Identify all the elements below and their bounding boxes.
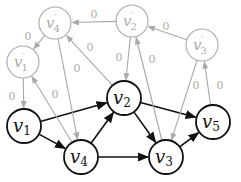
edge-weight-label: 0 — [193, 79, 200, 92]
edge-v2-to-v3 — [134, 112, 156, 142]
edge-v1-to-v4 — [39, 134, 65, 148]
node-v2: v2 — [107, 81, 141, 115]
node-v1: v1 — [7, 109, 41, 143]
edge-weight-label: 0 — [116, 51, 123, 64]
node-v4: v4 — [64, 140, 98, 174]
node-v3p: v′3 — [186, 29, 218, 61]
edge-weight-label: 0 — [9, 90, 16, 103]
edge-weight-label: 0 — [149, 53, 156, 66]
edge-v3p-to-v3 — [172, 60, 198, 140]
node-v5: v5 — [196, 105, 230, 139]
edge-weight-label: 0 — [217, 79, 224, 92]
edge-weight-label: 0 — [87, 41, 94, 54]
edge-v4p-to-v1p — [34, 35, 45, 48]
edge-weight-label: 0 — [25, 30, 32, 43]
edge-v5-to-v3p — [204, 62, 210, 105]
node-v1p: v′1 — [7, 46, 39, 78]
node-v3: v3 — [149, 140, 183, 174]
node-v4p: v′4 — [39, 7, 71, 39]
node-v2p: v′2 — [116, 5, 148, 37]
edge-v3-to-v5 — [180, 133, 199, 147]
edge-v4-to-v2 — [91, 113, 113, 144]
edge-weight-label: 0 — [52, 88, 59, 101]
edge-v2p-to-v4p — [72, 21, 116, 22]
edge-weight-label: 0 — [74, 62, 81, 75]
edge-weight-label: 0 — [163, 20, 170, 33]
graph-diagram: 00000000000 v1v2v3v4v5v′1v′2v′3v′4 — [0, 0, 241, 182]
edge-weight-label: 0 — [91, 8, 98, 21]
edge-v2-to-v5 — [140, 102, 195, 117]
edge-v2p-to-v2 — [126, 37, 130, 80]
